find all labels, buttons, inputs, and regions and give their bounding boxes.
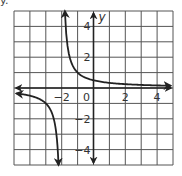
y-tick-label: −2 — [74, 113, 90, 126]
y-axis-label: y — [98, 10, 107, 24]
y-tick-label: −4 — [74, 144, 90, 157]
x-tick-label: 2 — [122, 91, 129, 104]
y-tick-label: 2 — [84, 51, 91, 64]
curve-right-branch — [65, 11, 171, 86]
axes — [16, 13, 171, 163]
x-tick-label: 4 — [154, 91, 161, 104]
x-tick-label: 0 — [83, 91, 90, 104]
function-graph: −202442−2−4y — [0, 0, 182, 176]
curve-left-branch — [16, 93, 58, 165]
y-tick-label: 4 — [84, 20, 91, 33]
x-tick-label: −2 — [54, 91, 70, 104]
